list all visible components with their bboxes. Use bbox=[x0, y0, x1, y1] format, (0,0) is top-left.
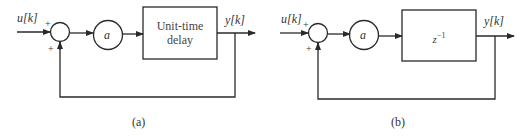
sum-sign-bottom-a: + bbox=[48, 44, 54, 54]
caption-b: (b) bbox=[391, 116, 405, 128]
delay-block-line1-a: Unit-time bbox=[143, 19, 217, 33]
caption-a: (a) bbox=[132, 116, 145, 128]
gain-label-a: a bbox=[104, 29, 110, 41]
delay-block-label-b: z−1 bbox=[402, 29, 476, 46]
summing-junction-a bbox=[51, 23, 70, 42]
sum-sign-top-b: + bbox=[303, 20, 309, 30]
block-diagrams bbox=[0, 0, 529, 136]
delay-block-label-a: Unit-time delay bbox=[143, 19, 217, 47]
summing-junction-b bbox=[309, 24, 328, 43]
gain-label-b: a bbox=[360, 29, 366, 41]
input-label-a: u[k] bbox=[17, 12, 38, 24]
output-label-a: y[k] bbox=[225, 14, 245, 26]
output-label-b: y[k] bbox=[484, 15, 504, 27]
delay-block-line2-a: delay bbox=[143, 33, 217, 47]
input-label-b: u[k] bbox=[281, 13, 302, 25]
z-exponent: −1 bbox=[437, 31, 446, 40]
diagram-b bbox=[280, 10, 514, 99]
sum-sign-top-a: + bbox=[45, 19, 51, 29]
sum-sign-bottom-b: + bbox=[306, 44, 312, 54]
